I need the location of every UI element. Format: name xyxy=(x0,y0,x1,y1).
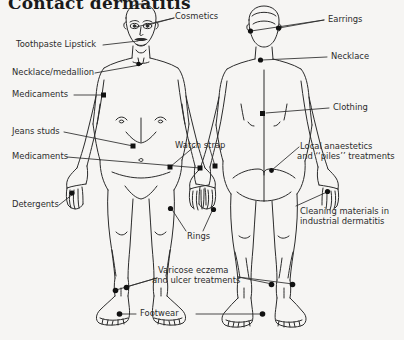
label-local-line2: and ‘‘piles’’ treatments xyxy=(297,151,395,161)
contact-dermatitis-figure: Contact dermatitis xyxy=(0,0,404,340)
label-cleaning-line2: industrial dermatitis xyxy=(300,216,384,226)
label-detergents: Detergents xyxy=(12,199,59,209)
label-varicose-line2: and ulcer treatments xyxy=(152,275,240,285)
label-cosmetics: Cosmetics xyxy=(175,11,218,21)
label-necklace-medallion: Necklace/medallion xyxy=(12,67,94,77)
label-rings: Rings xyxy=(187,231,210,241)
label-cleaning-line1: Cleaning materials in xyxy=(300,206,389,216)
label-footwear: Footwear xyxy=(140,308,179,318)
label-toothpaste-lipstick: Toothpaste Lipstick xyxy=(16,39,96,49)
label-medicaments-upper: Medicaments xyxy=(12,89,68,99)
label-local-line1: Local anaestetics xyxy=(300,141,372,151)
label-earrings: Earrings xyxy=(328,14,362,24)
label-necklace: Necklace xyxy=(331,51,369,61)
label-clothing: Clothing xyxy=(333,102,368,112)
label-jeans-studs: Jeans studs xyxy=(12,126,60,136)
label-medicaments-lower: Medicaments xyxy=(12,151,68,161)
label-watch-strap: Watch strap xyxy=(175,140,225,150)
label-varicose-line1: Varicose eczema xyxy=(158,265,228,275)
